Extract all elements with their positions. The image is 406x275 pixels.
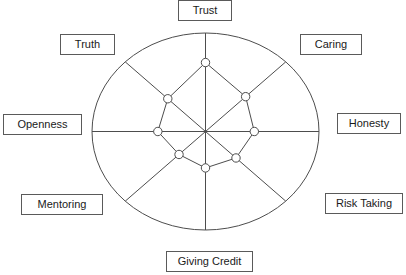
radar-data-point-markers-group (154, 58, 259, 172)
axis-label-honesty: Honesty (337, 113, 401, 134)
axis-label-giving-credit-text: Giving Credit (178, 256, 242, 267)
axis-label-openness-text: Openness (17, 119, 67, 130)
axis-label-truth: Truth (60, 34, 115, 55)
radar-data-point-openness (154, 127, 162, 135)
axis-label-truth-text: Truth (75, 39, 100, 50)
radar-data-point-giving-credit (201, 164, 209, 172)
radar-data-point-risk-taking (232, 154, 240, 162)
radar-series-polygon-group (158, 63, 254, 168)
radar-data-point-trust (201, 58, 209, 66)
axis-label-risk-taking: Risk Taking (325, 193, 403, 214)
radar-data-point-honesty (250, 127, 258, 135)
axis-label-giving-credit: Giving Credit (166, 251, 253, 272)
axis-label-mentoring: Mentoring (21, 194, 103, 215)
radar-data-point-truth (164, 95, 172, 103)
radar-data-point-mentoring (175, 150, 183, 158)
radar-data-point-caring (241, 92, 249, 100)
axis-label-caring: Caring (300, 34, 362, 55)
axis-label-risk-taking-text: Risk Taking (336, 198, 392, 209)
axis-label-mentoring-text: Mentoring (38, 199, 87, 210)
axis-label-honesty-text: Honesty (349, 118, 389, 129)
radar-axis-line-mentoring (125, 132, 205, 202)
radar-series-polygon (158, 63, 254, 168)
axis-label-caring-text: Caring (315, 39, 347, 50)
axis-label-trust: Trust (178, 0, 232, 21)
radar-chart-figure: Trust Truth Caring Openness Honesty Ment… (0, 0, 406, 275)
axis-label-trust-text: Trust (193, 5, 218, 16)
radar-axis-line-risk-taking (206, 132, 286, 202)
axis-label-openness: Openness (3, 114, 82, 135)
